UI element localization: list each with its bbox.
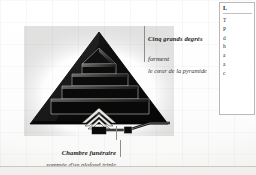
scanned-page: Cinq grands degrés forment le cœur de la… [0,0,256,175]
pyramid-level-2 [62,86,138,99]
text-column: L TPdhaac [219,2,255,115]
caption-five-degrees-lead: Cinq grands degrés [148,35,203,42]
text-column-line: T [223,16,252,25]
pyramid-level-4 [82,64,116,74]
text-column-heading: L [223,5,252,11]
text-column-line: h [223,42,252,51]
caption-five-degrees-sub: le cœur de la pyramide [148,67,215,75]
text-column-line: c [223,69,252,78]
page-bottom-shade [0,167,256,175]
text-column-rule [223,13,252,14]
text-column-line: a [223,60,252,69]
text-column-line: a [223,51,252,60]
caption-five-degrees-tail: forment [148,55,169,62]
caption-burial-chamber-lead: Chambre funéraire [62,149,116,156]
caption-five-degrees: Cinq grands degrés forment le cœur de la… [144,26,215,42]
pyramid-level-3 [72,74,128,86]
caption-burial-chamber: Chambre funéraire sommée d'un plafond tr… [24,140,121,157]
figure-pyramid-cross-section: Cinq grands degrés forment le cœur de la… [0,0,215,166]
text-column-body: TPdhaac [223,16,252,77]
text-column-line: P [223,25,252,34]
leader-line-bottom [116,126,117,140]
leader-line-top [144,42,145,62]
text-column-line: d [223,34,252,43]
